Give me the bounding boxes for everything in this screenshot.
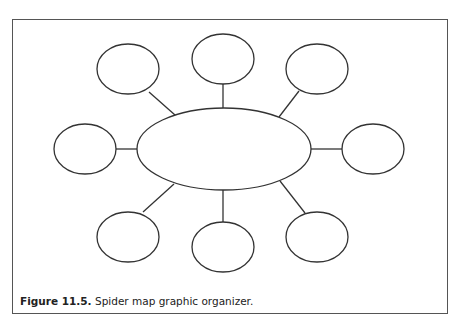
- node-ellipse-bottom-right: [286, 212, 348, 262]
- connector-top-left: [149, 92, 175, 115]
- figure-label: Figure 11.5.: [20, 295, 92, 307]
- node-ellipse-top-right: [286, 44, 348, 94]
- node-ellipse-top-left: [97, 44, 159, 94]
- node-ellipse-top-center: [192, 34, 254, 84]
- connector-top-right: [279, 91, 299, 117]
- figure-caption: Figure 11.5. Spider map graphic organize…: [20, 295, 253, 307]
- node-ellipse-right: [342, 124, 404, 174]
- node-ellipse-bottom-left: [97, 212, 159, 262]
- central-ellipse: [137, 108, 311, 190]
- connector-bottom-right: [280, 181, 305, 213]
- node-ellipse-left: [54, 124, 116, 174]
- node-ellipse-bottom-center: [192, 222, 254, 272]
- connector-bottom-left: [143, 184, 174, 212]
- spider-map-diagram: [0, 0, 459, 324]
- figure-caption-text: Spider map graphic organizer.: [92, 295, 254, 307]
